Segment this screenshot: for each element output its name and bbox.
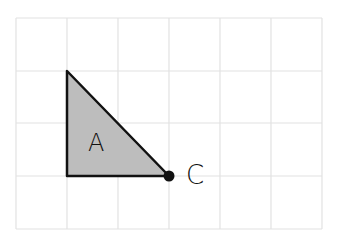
- point-c: [164, 171, 175, 182]
- point-label: C: [186, 162, 204, 188]
- grid-lines: [16, 18, 322, 229]
- grid-diagram: [0, 0, 340, 238]
- triangle-label: A: [88, 131, 104, 155]
